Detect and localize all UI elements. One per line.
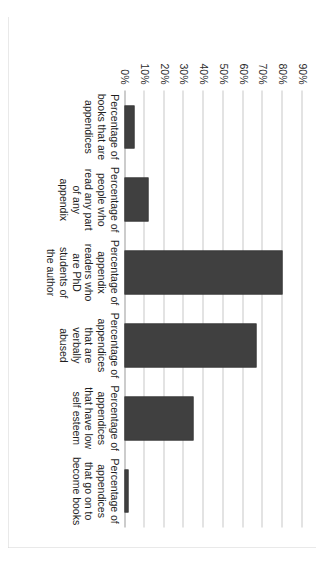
chart-page: 90%80%70%60%50%40%30%20%10%0% Percentage… [0, 0, 325, 564]
category-label-line: students of [57, 236, 70, 309]
category-label-line: people who [95, 163, 108, 236]
category-label-line: verbally [69, 309, 82, 382]
value-tick-label: 10% [139, 63, 150, 84]
category-label-line: read any part [82, 163, 95, 236]
category-label-line: Percentage of [108, 309, 121, 382]
category-label-line: Percentage of [108, 455, 121, 528]
category-label-line: appendix [95, 236, 108, 309]
category-label-line: appendix [57, 163, 70, 236]
bar [125, 396, 194, 440]
value-tick-label: 20% [159, 63, 170, 84]
category-label-line: Percentage of [108, 91, 121, 164]
value-tick-label: 60% [238, 63, 249, 84]
value-tick-label: 90% [297, 63, 308, 84]
value-tick-label: 0% [119, 69, 130, 84]
category-label-line: books that are [95, 91, 108, 164]
plot-area: 90%80%70%60%50%40%30%20%10%0% [125, 91, 303, 528]
bar-chart: 90%80%70%60%50%40%30%20%10%0% Percentage… [9, 17, 317, 548]
bar [125, 251, 283, 295]
category-label-line: are PhD [69, 236, 82, 309]
category-label: Percentage ofappendicesthat go on tobeco… [69, 455, 120, 528]
value-tick-label: 80% [277, 63, 288, 84]
category-label-line: appendices [82, 91, 95, 164]
category-label-line: become books [69, 455, 82, 528]
category-label-line: Percentage of [108, 382, 121, 455]
bar [125, 324, 258, 368]
category-label: Percentage ofappendicesthat have lowself… [69, 382, 120, 455]
value-tick-label: 40% [198, 63, 209, 84]
category-axis-labels: Percentage ofbooks that areappendicesPer… [17, 91, 121, 528]
category-label-line: appendices [95, 455, 108, 528]
category-label-line: the author [44, 236, 57, 309]
category-label: Percentage ofpeople whoread any partof a… [57, 163, 121, 236]
category-label-line: self esteem [69, 382, 82, 455]
chart-rotation-stage: 90%80%70%60%50%40%30%20%10%0% Percentage… [9, 17, 317, 548]
category-label: Percentage ofappendixreaders whoare PhDs… [44, 236, 121, 309]
value-tick-label: 50% [218, 63, 229, 84]
bars-group [125, 91, 303, 528]
category-label-line: Percentage of [108, 163, 121, 236]
category-label-line: readers who [82, 236, 95, 309]
category-label: Percentage ofbooks that areappendices [82, 91, 120, 164]
category-label-line: of any [69, 163, 82, 236]
category-label-line: that have low [82, 382, 95, 455]
value-tick-label: 70% [258, 63, 269, 84]
category-label-line: that go on to [82, 455, 95, 528]
category-label-line: appendices [95, 382, 108, 455]
bar [125, 105, 135, 149]
category-label: Percentage ofappendicesthat areverballya… [57, 309, 121, 382]
category-label-line: abused [57, 309, 70, 382]
value-tick-label: 30% [179, 63, 190, 84]
bar [125, 469, 129, 513]
category-label-line: Percentage of [108, 236, 121, 309]
category-label-line: appendices [95, 309, 108, 382]
bar [125, 178, 149, 222]
category-label-line: that are [82, 309, 95, 382]
